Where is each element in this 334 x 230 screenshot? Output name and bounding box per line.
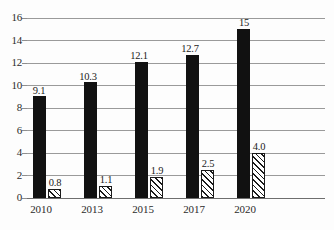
bar-label-solid-2010: 9.1 <box>24 85 54 96</box>
bar-label-hatched-2013: 1.1 <box>91 174 121 185</box>
bar-chart: 16 14 12 10 8 6 4 2 0 9.1 0.8 2010 10.3 … <box>0 0 334 230</box>
tick-0 <box>22 198 27 199</box>
gridline-8 <box>26 108 325 109</box>
tick-4 <box>22 153 27 154</box>
y-axis-label-16: 16 <box>0 12 22 23</box>
bar-hatched-2013 <box>99 186 112 198</box>
gridline-12 <box>26 63 325 64</box>
gridline-4 <box>26 153 325 154</box>
x-axis-label-2015: 2015 <box>120 203 166 215</box>
tick-12 <box>22 63 27 64</box>
y-axis-label-14: 14 <box>0 35 22 46</box>
y-axis-label-4: 4 <box>0 147 22 158</box>
bar-hatched-2015 <box>150 177 163 198</box>
bar-label-hatched-2020: 4.0 <box>244 141 274 152</box>
x-axis-label-2013: 2013 <box>69 203 115 215</box>
bar-solid-2017 <box>186 55 199 198</box>
x-axis-label-2010: 2010 <box>18 203 64 215</box>
bar-hatched-2020 <box>252 153 265 198</box>
bar-label-hatched-2010: 0.8 <box>40 177 70 188</box>
y-axis-label-6: 6 <box>0 125 22 136</box>
bar-label-solid-2017: 12.7 <box>175 43 205 54</box>
tick-6 <box>22 130 27 131</box>
x-axis-label-2017: 2017 <box>171 203 217 215</box>
bar-label-hatched-2015: 1.9 <box>142 165 172 176</box>
gridline-6 <box>26 130 325 131</box>
tick-16 <box>22 18 27 19</box>
bar-label-solid-2013: 10.3 <box>73 71 103 82</box>
tick-8 <box>22 108 27 109</box>
x-axis-label-2020: 2020 <box>222 203 268 215</box>
tick-14 <box>22 40 27 41</box>
gridline-10 <box>26 85 325 86</box>
y-axis-label-10: 10 <box>0 80 22 91</box>
bar-label-solid-2015: 12.1 <box>124 50 154 61</box>
axis-baseline <box>26 198 325 199</box>
gridline-14 <box>26 40 325 41</box>
y-axis-label-12: 12 <box>0 57 22 68</box>
tick-2 <box>22 175 27 176</box>
gridline-16 <box>26 18 325 19</box>
bar-solid-2020 <box>237 29 250 198</box>
bar-hatched-2017 <box>201 170 214 198</box>
bar-solid-2015 <box>135 62 148 198</box>
bar-label-solid-2020: 15 <box>229 17 259 28</box>
y-axis-label-0: 0 <box>0 192 22 203</box>
bar-hatched-2010 <box>48 189 61 198</box>
bar-label-hatched-2017: 2.5 <box>193 158 223 169</box>
y-axis-label-2: 2 <box>0 170 22 181</box>
y-axis-label-8: 8 <box>0 102 22 113</box>
gridline-2 <box>26 175 325 176</box>
